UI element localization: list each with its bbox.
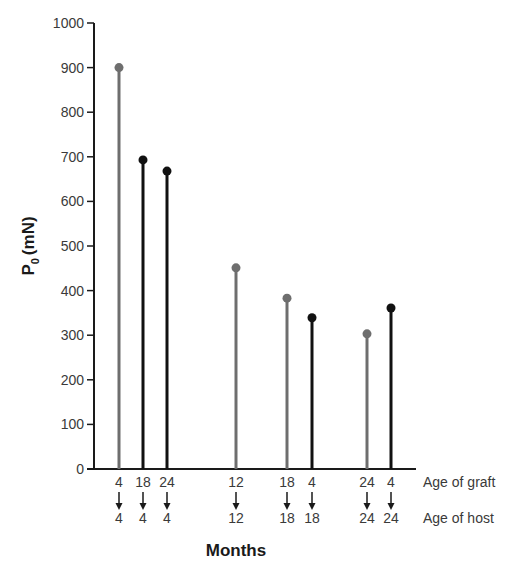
y-tick-label: 1000 (53, 15, 84, 31)
y-ticks: 01002003004005006007008009001000 (53, 15, 94, 477)
host-age-label: 18 (304, 510, 320, 526)
graft-age-label: 4 (308, 474, 316, 490)
point-marker (139, 155, 148, 164)
y-tick-label: 600 (61, 193, 85, 209)
y-tick-label: 500 (61, 238, 85, 254)
graft-age-label: 18 (279, 474, 295, 490)
data-point (283, 294, 292, 469)
y-tick-label: 800 (61, 104, 85, 120)
arrow-head-icon (364, 503, 371, 510)
x-axis-title: Months (206, 541, 266, 560)
arrow-head-icon (116, 503, 123, 510)
y-tick-label: 300 (61, 327, 85, 343)
data-point (115, 63, 124, 469)
arrow-head-icon (309, 503, 316, 510)
point-marker (163, 167, 172, 176)
graft-age-label: 4 (387, 474, 395, 490)
host-age-label: 12 (228, 510, 244, 526)
y-tick-label: 200 (61, 372, 85, 388)
y-tick-label: 400 (61, 283, 85, 299)
data-point (163, 167, 172, 469)
host-age-label: 4 (115, 510, 123, 526)
data-point (387, 303, 396, 469)
data-point (363, 329, 372, 469)
graft-age-label: 24 (359, 474, 375, 490)
age-of-host-label: Age of host (423, 510, 494, 526)
data-point (308, 313, 317, 469)
x-category-labels: 44184244121218184182424424 (115, 474, 399, 526)
y-tick-label: 100 (61, 416, 85, 432)
arrow-head-icon (140, 503, 147, 510)
point-marker (115, 63, 124, 72)
point-marker (283, 294, 292, 303)
point-marker (232, 263, 241, 272)
host-age-label: 24 (359, 510, 375, 526)
data-point (232, 263, 241, 469)
svg-text:P0(mN): P0(mN) (19, 216, 41, 275)
y-tick-label: 0 (76, 461, 84, 477)
lollipop-chart: 01002003004005006007008009001000 4418424… (0, 0, 528, 566)
y-axis-title-unit: (mN) (19, 216, 38, 255)
graft-age-label: 4 (115, 474, 123, 490)
graft-age-label: 12 (228, 474, 244, 490)
arrow-head-icon (233, 503, 240, 510)
graft-age-label: 24 (159, 474, 175, 490)
host-age-label: 18 (279, 510, 295, 526)
age-of-graft-label: Age of graft (423, 474, 495, 490)
arrow-head-icon (284, 503, 291, 510)
y-tick-label: 900 (61, 60, 85, 76)
y-axis-title: P0(mN) (19, 216, 41, 275)
data-point (139, 155, 148, 469)
y-axis-title-sub: 0 (29, 258, 41, 264)
point-marker (387, 303, 396, 312)
data-stems (115, 63, 396, 469)
host-age-label: 4 (139, 510, 147, 526)
host-age-label: 24 (383, 510, 399, 526)
arrow-head-icon (164, 503, 171, 510)
point-marker (363, 329, 372, 338)
graft-age-label: 18 (135, 474, 151, 490)
host-age-label: 4 (163, 510, 171, 526)
y-axis-title-main: P (19, 264, 38, 275)
y-tick-label: 700 (61, 149, 85, 165)
arrow-head-icon (388, 503, 395, 510)
point-marker (308, 313, 317, 322)
